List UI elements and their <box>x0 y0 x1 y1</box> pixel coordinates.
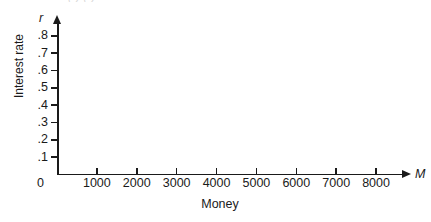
x-axis-title: Money <box>160 198 280 211</box>
x-axis-tick-label: 8000 <box>346 177 406 190</box>
y-axis-tick <box>51 104 57 106</box>
y-axis-tick <box>51 139 57 141</box>
y-axis-tick <box>51 35 57 37</box>
x-axis-variable-label: M <box>415 168 425 181</box>
x-axis-tick <box>256 168 258 174</box>
y-axis-tick-label: .2 <box>18 133 48 145</box>
y-axis-title: Interest rate <box>13 11 25 121</box>
x-axis-tick <box>176 168 178 174</box>
y-axis-tick <box>51 87 57 89</box>
clipped-top-text: ( ) ( ) <box>68 0 368 2</box>
y-axis-tick-label-text: .2 <box>18 133 48 146</box>
y-axis-tick <box>51 70 57 72</box>
plot-area <box>58 22 404 174</box>
x-axis-tick <box>96 168 98 174</box>
x-axis-tick <box>216 168 218 174</box>
x-axis-tick <box>296 168 298 174</box>
origin-label: 0 <box>37 177 44 190</box>
x-axis-tick <box>375 168 377 174</box>
x-axis-line <box>57 174 404 176</box>
y-axis-tick <box>51 122 57 124</box>
y-axis-tick-label-text: .1 <box>18 151 48 164</box>
y-axis-arrow-icon <box>53 15 61 24</box>
y-axis-tick <box>51 156 57 158</box>
y-axis-tick <box>51 52 57 54</box>
y-axis-line <box>57 22 59 175</box>
x-axis-tick <box>136 168 138 174</box>
y-axis-tick-label: .1 <box>18 151 48 163</box>
y-axis-variable-label: r <box>39 12 43 25</box>
interest-rate-money-graph: ( ) ( ) r M 0 .8.7.6.5.4.3.2.1 100020003… <box>0 0 431 222</box>
x-axis-tick <box>335 168 337 174</box>
